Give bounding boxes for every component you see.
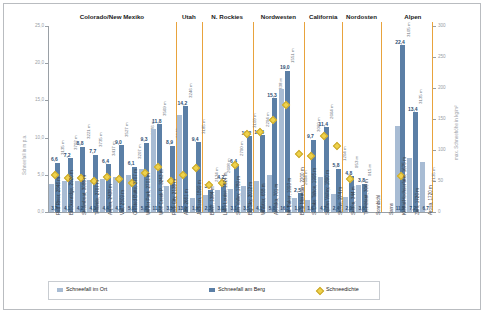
- altitude-label-10: 3246 m: [188, 84, 193, 99]
- group-header-3: Nordwesten: [253, 13, 304, 20]
- legend-label-0: Schneefall im Ort: [66, 286, 107, 292]
- y-tick-left: [45, 138, 48, 139]
- y-tick-label-right: 0: [438, 209, 441, 214]
- bar-value-label-22: 5,8: [325, 162, 347, 168]
- y-tick-label-right: 250: [438, 54, 446, 59]
- altitude-label-2: 3221 m: [86, 124, 91, 139]
- altitude-label-21: 2664 m: [329, 105, 334, 120]
- y-tick-label-left: 5,0: [28, 172, 44, 177]
- x-axis-label-10: Alta, 2661 m: [184, 189, 189, 215]
- group-separator-end: [432, 22, 433, 212]
- y-tick-label-right: 100: [438, 147, 446, 152]
- group-header-4: California: [304, 13, 342, 20]
- altitude-label-8: 3569 m: [162, 102, 167, 117]
- altitude-label-5: 3527 m: [124, 122, 129, 137]
- y-tick-label-left: 15,0: [28, 97, 44, 102]
- y-tick-label-left: 20,0: [28, 60, 44, 65]
- y-tick-right: [433, 57, 436, 58]
- x-axis-label-5: Vail, 2509 m: [120, 190, 125, 215]
- x-axis-label-29: Arosa, 1720 m: [428, 185, 433, 215]
- legend-swatch-0: [57, 288, 63, 292]
- bar-ort-10[interactable]: [177, 115, 182, 212]
- altitude-label-15: 3109 m: [252, 113, 257, 128]
- bar-ort-29[interactable]: [420, 162, 425, 212]
- altitude-label-23: 953 m: [354, 156, 359, 168]
- bar-value-label-1: 7,2: [56, 152, 78, 158]
- y-tick-label-left: 10,0: [28, 135, 44, 140]
- bar-value-label-18: 19,0: [274, 64, 296, 70]
- bar-value-label-3: 7,7: [82, 148, 104, 154]
- altitude-label-24: 915 m: [367, 164, 372, 176]
- x-axis-label-25: Sonnbichl: [376, 195, 381, 215]
- group-header-6: Alpen: [381, 13, 445, 20]
- y-tick-left: [45, 100, 48, 101]
- y-tick-right: [433, 150, 436, 151]
- group-header-0: Colorado/New Mexiko: [48, 13, 176, 20]
- y-axis-title-left: Schneefall in m p.a.: [22, 134, 27, 174]
- bar-value-label-21: 11,4: [312, 121, 334, 127]
- bar-value-label-28: 13,4: [402, 106, 424, 112]
- altitude-label-18: 1551 m: [290, 48, 295, 63]
- y-axis-title-right: max. Schneehöhe in kg/m²: [454, 105, 459, 160]
- y-tick-left: [45, 26, 48, 27]
- bar-ort-8[interactable]: [151, 129, 156, 212]
- chart-legend: Schneefall im OrtSchneefall am BergSchne…: [48, 281, 380, 300]
- y-tick-label-right: 300: [438, 23, 446, 28]
- bar-ort-27[interactable]: [395, 126, 400, 212]
- bar-value-label-27: 22,4: [389, 39, 411, 45]
- x-axis-label-24: Tremblant, 306 m: [364, 179, 369, 215]
- y-tick-label-right: 50: [438, 178, 443, 183]
- chart-plot-area: 0,05,010,015,020,025,0Schneefall in m p.…: [4, 4, 482, 311]
- altitude-label-11: 3185 m: [201, 119, 206, 134]
- y-tick-label-left: 25,0: [28, 23, 44, 28]
- legend-label-2: Schneedichte: [326, 286, 359, 292]
- group-header-2: N. Rockies: [202, 13, 253, 20]
- y-tick-label-right: 200: [438, 85, 446, 90]
- density-marker-19[interactable]: [294, 150, 302, 158]
- bar-value-label-5: 9,0: [107, 139, 129, 145]
- group-separator-5: [342, 22, 343, 212]
- group-header-1: Utah: [176, 13, 202, 20]
- bar-value-label-6: 6,1: [120, 160, 142, 166]
- bar-value-label-11: 9,4: [184, 136, 206, 142]
- altitude-label-14: 2790 m: [239, 142, 244, 157]
- altitude-label-28: 3135 m: [418, 90, 423, 105]
- altitude-label-3: 3735 m: [98, 132, 103, 147]
- y-tick-right: [433, 212, 436, 213]
- altitude-label-29: 2135 m: [431, 167, 436, 182]
- y-tick-left: [45, 175, 48, 176]
- y-tick-left: [45, 63, 48, 64]
- bar-value-label-10: 14,2: [171, 100, 193, 106]
- y-tick-label-left: 0,0: [28, 209, 44, 214]
- density-marker-22[interactable]: [333, 142, 341, 150]
- legend-swatch-2: [316, 286, 324, 294]
- y-tick-label-right: 150: [438, 116, 446, 121]
- bar-value-label-8: 11,8: [146, 118, 168, 124]
- bar-value-label-20: 9,7: [299, 133, 321, 139]
- y-tick-right: [433, 26, 436, 27]
- altitude-label-22: 1204 m: [342, 146, 347, 161]
- altitude-label-6: 3207 m: [137, 144, 142, 159]
- chart-frame: 0,05,010,015,020,025,0Schneefall in m p.…: [3, 3, 481, 310]
- bar-value-label-4: 6,4: [95, 158, 117, 164]
- legend-swatch-1: [209, 288, 215, 292]
- legend-label-1: Schneefall am Berg: [218, 286, 265, 292]
- group-separator-6: [381, 22, 382, 212]
- bar-value-label-2: 8,8: [69, 140, 91, 146]
- bar-ort-28[interactable]: [407, 158, 412, 212]
- group-header-5: Nordosten: [342, 13, 380, 20]
- y-tick-right: [433, 88, 436, 89]
- altitude-label-27: 3105 m: [406, 23, 411, 38]
- y-tick-right: [433, 119, 436, 120]
